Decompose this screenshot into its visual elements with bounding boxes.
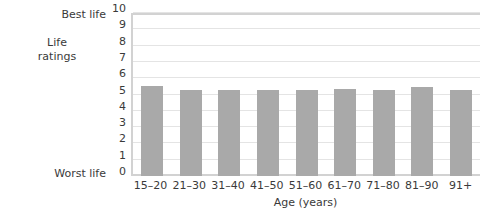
bar — [257, 90, 279, 176]
bar — [334, 89, 356, 176]
bars-layer — [133, 15, 480, 176]
x-axis-title: Age (years) — [131, 196, 480, 209]
y-axis-tick-label: 3 — [108, 117, 126, 128]
x-axis-tick-label: 15–20 — [131, 179, 170, 192]
y-axis-tick-label: 10 — [108, 3, 126, 14]
x-axis-tick-label: 91+ — [441, 179, 480, 192]
y-axis-tick-label: 2 — [108, 133, 126, 144]
bar — [141, 86, 163, 176]
x-axis-tick-label: 71–80 — [364, 179, 403, 192]
y-axis-title: Life ratings — [14, 36, 100, 64]
x-axis-tick-labels: 15–2021–3031–4041–5051–6061–7071–8081–90… — [131, 179, 480, 192]
bar — [411, 87, 433, 176]
bar — [218, 90, 240, 176]
y-axis-endpoint-low-label: Worst life — [14, 167, 106, 180]
bar — [296, 90, 318, 176]
bar-slot — [442, 15, 481, 176]
y-axis-tick-label: 9 — [108, 19, 126, 30]
bar — [450, 90, 472, 176]
bar-slot — [133, 15, 172, 176]
x-axis-tick-label: 61–70 — [325, 179, 364, 192]
y-axis-tick-label: 4 — [108, 100, 126, 111]
bar-slot — [249, 15, 288, 176]
x-axis-tick-label: 31–40 — [209, 179, 248, 192]
y-axis-tick-label: 6 — [108, 68, 126, 79]
y-axis-tick-labels: 109876543210 — [108, 8, 126, 176]
y-axis-tick-label: 5 — [108, 84, 126, 95]
y-axis-endpoint-high-label: Best life — [14, 8, 106, 21]
y-axis-title-line-2: ratings — [14, 50, 100, 64]
y-axis-tick-label: 1 — [108, 149, 126, 160]
bar-slot — [287, 15, 326, 176]
bar-chart: Best life Life ratings Worst life 109876… — [0, 0, 500, 222]
bar-slot — [364, 15, 403, 176]
plot-area — [131, 13, 480, 176]
x-axis-tick-label: 21–30 — [170, 179, 209, 192]
bar-slot — [326, 15, 365, 176]
bar — [180, 90, 202, 176]
y-axis-tick-label: 7 — [108, 51, 126, 62]
y-axis-tick-label: 0 — [108, 166, 126, 177]
y-axis-tick-label: 8 — [108, 35, 126, 46]
x-axis-tick-label: 51–60 — [286, 179, 325, 192]
bar-slot — [403, 15, 442, 176]
bar-slot — [210, 15, 249, 176]
x-axis-tick-label: 41–50 — [247, 179, 286, 192]
bar-slot — [172, 15, 211, 176]
gridline — [133, 12, 480, 13]
bar — [373, 90, 395, 176]
y-axis-title-line-1: Life — [14, 36, 100, 50]
x-axis-tick-label: 81–90 — [402, 179, 441, 192]
